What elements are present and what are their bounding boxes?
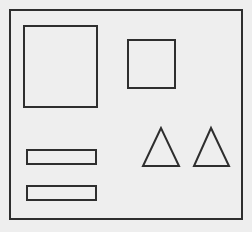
shapes-group (24, 26, 229, 200)
large-square (24, 26, 97, 107)
bar-bottom (27, 186, 96, 200)
diagram-canvas (0, 0, 252, 232)
triangle-right (194, 128, 229, 166)
triangle-left (143, 128, 179, 166)
small-square (128, 40, 175, 88)
wireframe-sketch (0, 0, 252, 232)
bar-top (27, 150, 96, 164)
outer-frame (10, 10, 242, 219)
